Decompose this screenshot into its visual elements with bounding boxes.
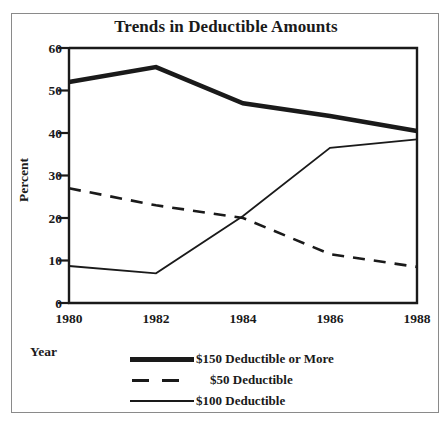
series-line-150-deductible-or-more <box>69 67 417 131</box>
axes-box <box>69 48 417 303</box>
legend-label-100-deductible: $100 Deductible <box>196 393 285 409</box>
legend-item-50-deductible: $50 Deductible <box>128 369 428 390</box>
legend-item-150-deductible-or-more: $150 Deductible or More <box>128 348 428 369</box>
legend-label-50-deductible: $50 Deductible <box>196 372 293 388</box>
legend-label-150-deductible-or-more: $150 Deductible or More <box>196 351 334 367</box>
chart-figure: Trends in Deductible Amounts Percent 60 … <box>0 0 447 424</box>
series-line-50-deductible <box>69 188 417 267</box>
legend-swatch-thin-solid-line-icon <box>128 394 196 408</box>
legend-swatch-thick-solid-line-icon <box>128 352 196 366</box>
series-line-100-deductible <box>69 139 417 273</box>
legend-item-100-deductible: $100 Deductible <box>128 390 428 411</box>
axes-frame <box>69 48 417 303</box>
chart-legend: $150 Deductible or More $50 Deductible $… <box>128 348 428 411</box>
y-axis-ticks <box>58 48 69 303</box>
legend-swatch-dashed-line-icon <box>128 373 196 387</box>
